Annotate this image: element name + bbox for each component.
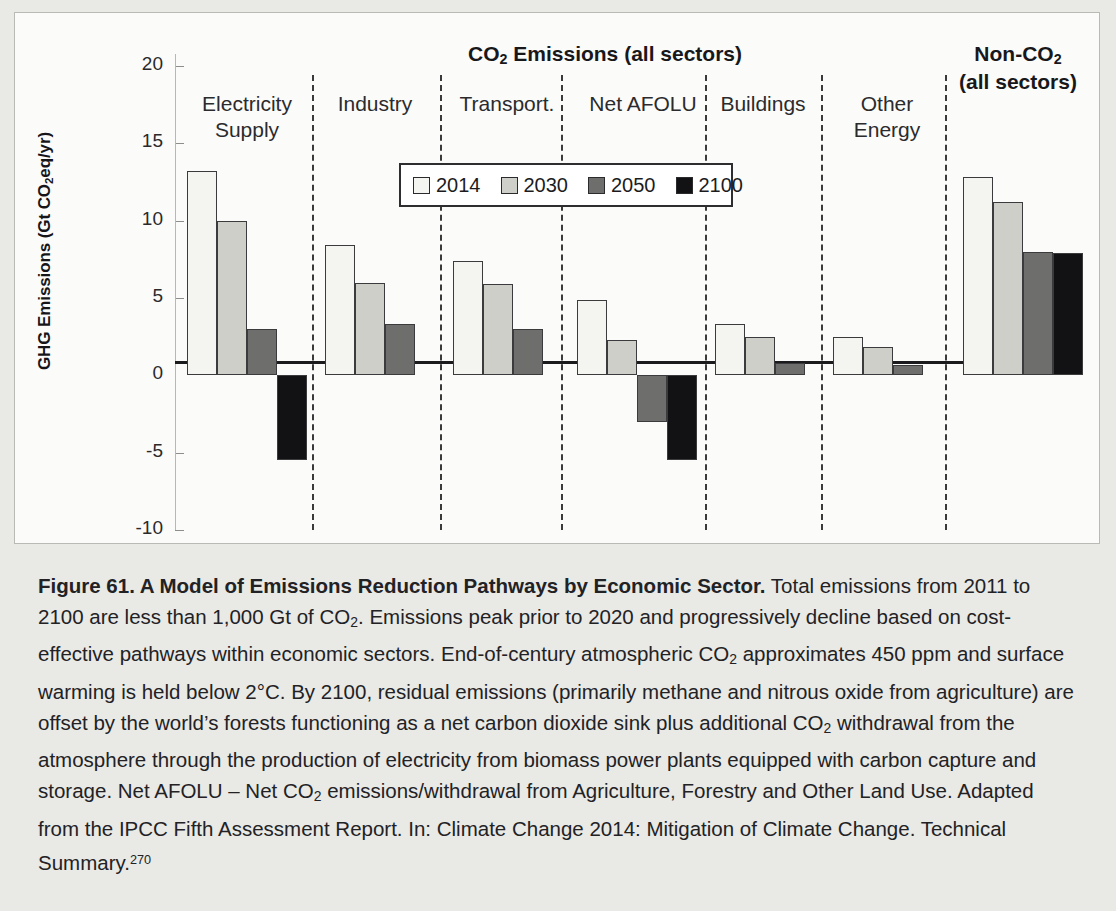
- bar: [325, 245, 355, 375]
- group-separator: [705, 75, 707, 530]
- y-tick-mark: [175, 453, 184, 454]
- legend-label: 2030: [524, 174, 569, 197]
- bar: [247, 329, 277, 375]
- bar: [385, 324, 415, 376]
- group-separator: [821, 75, 823, 530]
- y-tick-mark: [175, 143, 184, 144]
- legend-entry[interactable]: 2100: [676, 174, 744, 197]
- bar: [893, 365, 923, 375]
- bar: [577, 300, 607, 376]
- legend-entry[interactable]: 2014: [413, 174, 481, 197]
- caption-footnote-marker: 270: [130, 852, 151, 867]
- y-tick-label: 20: [109, 53, 163, 75]
- caption-sub-1: 2: [350, 614, 358, 630]
- legend-swatch-icon: [413, 177, 430, 194]
- legend-swatch-icon: [588, 177, 605, 194]
- bar: [963, 177, 993, 376]
- chart-main-title: CO2 Emissions (all sectors): [305, 41, 905, 69]
- bar: [1053, 253, 1083, 375]
- group-label-line: Energy: [792, 117, 982, 143]
- bar: [833, 337, 863, 376]
- bar: [483, 284, 513, 375]
- group-label-line: Supply: [152, 117, 342, 143]
- legend-entry[interactable]: 2030: [501, 174, 569, 197]
- group-separator: [440, 75, 442, 530]
- chart-plot-area: GHG Emissions (Gt CO2eq/yr) 20151050-5-1…: [15, 13, 1101, 545]
- legend-label: 2100: [699, 174, 744, 197]
- bar: [453, 261, 483, 375]
- y-tick-mark: [175, 66, 184, 67]
- legend-swatch-icon: [676, 177, 693, 194]
- bar: [187, 171, 217, 375]
- y-tick-mark: [175, 298, 184, 299]
- bar: [993, 202, 1023, 375]
- caption-bold-lead: Figure 61. A Model of Emissions Reductio…: [38, 574, 766, 597]
- bar: [637, 375, 667, 421]
- y-tick-mark: [175, 530, 184, 531]
- group-separator: [945, 75, 947, 530]
- group-label: OtherEnergy: [792, 91, 982, 142]
- y-tick-mark: [175, 221, 184, 222]
- figure-caption-text: Figure 61. A Model of Emissions Reductio…: [38, 570, 1076, 878]
- caption-sub-2: 2: [729, 652, 737, 668]
- y-tick-label: 5: [109, 285, 163, 307]
- y-tick-label: 10: [109, 208, 163, 230]
- chart-legend: 2014203020502100: [399, 163, 733, 207]
- bar: [667, 375, 697, 460]
- bar: [745, 337, 775, 376]
- bar: [217, 221, 247, 376]
- legend-label: 2050: [611, 174, 656, 197]
- legend-swatch-icon: [501, 177, 518, 194]
- group-separator: [312, 75, 314, 530]
- figure-caption-panel: Figure 61. A Model of Emissions Reductio…: [14, 556, 1100, 896]
- legend-label: 2014: [436, 174, 481, 197]
- bar: [277, 375, 307, 460]
- y-tick-label: -10: [109, 517, 163, 539]
- group-label-line: Other: [792, 91, 982, 117]
- y-axis-title: GHG Emissions (Gt CO2eq/yr): [35, 71, 55, 431]
- y-tick-label: -5: [109, 440, 163, 462]
- group-separator: [561, 75, 563, 530]
- bar: [607, 340, 637, 376]
- figure-page: GHG Emissions (Gt CO2eq/yr) 20151050-5-1…: [0, 0, 1116, 911]
- bar: [715, 324, 745, 376]
- bar: [863, 347, 893, 376]
- bar: [355, 283, 385, 376]
- legend-entry[interactable]: 2050: [588, 174, 656, 197]
- figure-panel: GHG Emissions (Gt CO2eq/yr) 20151050-5-1…: [14, 12, 1100, 544]
- y-tick-label: 0: [109, 362, 163, 384]
- bar: [775, 363, 805, 375]
- bar: [513, 329, 543, 375]
- caption-sub-4: 2: [314, 788, 322, 804]
- bar: [1023, 252, 1053, 375]
- chart-secondary-title: Non-CO2 (all sectors): [935, 41, 1101, 94]
